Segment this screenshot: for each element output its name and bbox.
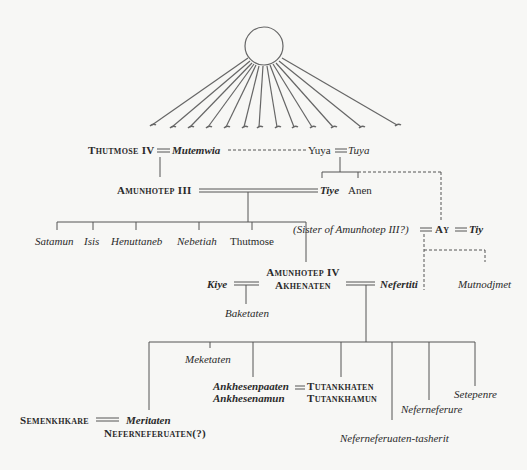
node-sister-of-amunhotep-iii: (Sister of Amunhotep III?) [293, 223, 409, 235]
node-henuttaneb: Henuttaneb [111, 235, 162, 247]
node-semenkhkare: Semenkhkare [20, 414, 89, 426]
node-akhenaten: Akhenaten [263, 279, 343, 291]
node-yuya: Yuya [308, 144, 331, 156]
node-ankhesenamun: Ankhesenamun [213, 392, 285, 404]
node-amunhotep-iv: Amunhotep IV [263, 266, 343, 278]
node-neferneferuaten: Neferneferuaten(?) [104, 427, 206, 439]
node-tutankhaten: Tutankhaten [307, 380, 374, 392]
node-meketaten: Meketaten [185, 353, 231, 365]
node-mutemwia: Mutemwia [172, 144, 220, 156]
node-thutmose-iv: Thutmose IV [88, 144, 155, 156]
node-isis: Isis [84, 235, 99, 247]
node-tuya: Tuya [348, 144, 369, 156]
node-baketaten: Baketaten [225, 307, 269, 319]
node-nefertiti: Nefertiti [380, 278, 418, 290]
node-ay: Ay [435, 223, 449, 235]
node-meritaten: Meritaten [126, 414, 171, 426]
node-tiy: Tiy [469, 223, 483, 235]
node-tutankhamun: Tutankhamun [307, 392, 377, 404]
node-anen: Anen [348, 184, 372, 196]
node-satamun: Satamun [35, 235, 74, 247]
node-setepenre: Setepenre [454, 388, 497, 400]
node-thutmose: Thutmose [230, 235, 274, 247]
node-tiye: Tiye [320, 184, 339, 196]
node-neferneferure: Neferneferure [401, 403, 462, 415]
node-ankhesenpaaten: Ankhesenpaaten [213, 380, 289, 392]
node-nebetiah: Nebetiah [177, 235, 217, 247]
aten-sun-icon [150, 27, 401, 128]
node-amunhotep-iii: Amunhotep III [117, 184, 192, 196]
node-mutnodjmet: Mutnodjmet [458, 278, 511, 290]
node-neferneferuaten-tasherit: Neferneferuaten-tasherit [340, 432, 449, 444]
node-kiye: Kiye [207, 278, 227, 290]
